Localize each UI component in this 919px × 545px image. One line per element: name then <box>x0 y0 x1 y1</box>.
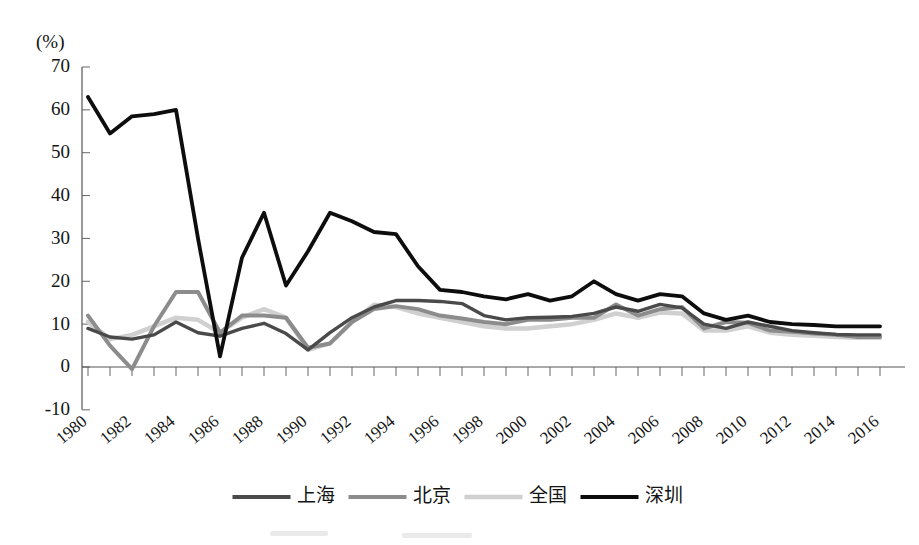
x-axis-tick-label: 1982 <box>96 412 134 448</box>
y-axis-tick-label: 40 <box>51 184 70 205</box>
page-scan-artifact <box>270 531 472 538</box>
series-lines <box>88 97 880 369</box>
line-chart-figure: (%) 706050403020100-10 19801982198419861… <box>0 0 919 545</box>
y-axis-unit-label-group: (%) <box>36 31 64 53</box>
y-axis-tick-label: 20 <box>51 270 70 291</box>
x-axis-tick-label: 1996 <box>404 412 442 448</box>
x-axis: 1980198219841986198819901992199419961998… <box>52 367 905 448</box>
legend-label-0: 上海 <box>297 485 335 506</box>
x-axis-tick-label: 1984 <box>140 411 179 448</box>
x-axis-tick-label: 1992 <box>316 412 354 448</box>
y-axis-tick-label: 10 <box>51 313 70 334</box>
legend-label-1: 北京 <box>413 485 451 506</box>
x-axis-tick-label: 1994 <box>360 411 399 448</box>
scan-smudge-left <box>270 531 328 536</box>
x-axis-tick-label: 1986 <box>184 412 222 448</box>
y-axis-tick-label: 0 <box>61 355 71 376</box>
x-axis-tick-label: 2002 <box>536 412 574 448</box>
chart-canvas: (%) 706050403020100-10 19801982198419861… <box>0 0 919 545</box>
x-axis-tick-label: 2010 <box>712 412 750 448</box>
x-axis-tick-label: 2004 <box>580 411 619 448</box>
series-line-3 <box>88 97 880 356</box>
y-axis-unit-label: (%) <box>36 31 64 53</box>
x-axis-tick-label: 1988 <box>228 412 266 448</box>
x-axis-tick-label: 1990 <box>272 412 310 448</box>
x-axis-tick-label: 2016 <box>844 412 882 448</box>
y-axis-tick-label: 30 <box>51 227 70 248</box>
y-axis: 706050403020100-10 <box>45 55 90 419</box>
y-axis-tick-label: 50 <box>51 141 70 162</box>
x-axis-tick-label: 2006 <box>624 412 662 448</box>
y-axis-tick-label: 70 <box>51 55 70 76</box>
x-axis-tick-label: 2008 <box>668 412 706 448</box>
x-axis-tick-label: 2014 <box>800 411 839 448</box>
x-axis-tick-label: 2012 <box>756 412 794 448</box>
chart-legend: 上海北京全国深圳 <box>233 485 683 506</box>
y-axis-tick-label: -10 <box>45 398 70 419</box>
y-axis-tick-label: 60 <box>51 98 70 119</box>
x-axis-tick-label: 2000 <box>492 412 530 448</box>
legend-label-2: 全国 <box>529 485 567 506</box>
scan-smudge-right <box>402 533 472 538</box>
legend-label-3: 深圳 <box>645 485 683 506</box>
x-axis-tick-label: 1998 <box>448 412 486 448</box>
